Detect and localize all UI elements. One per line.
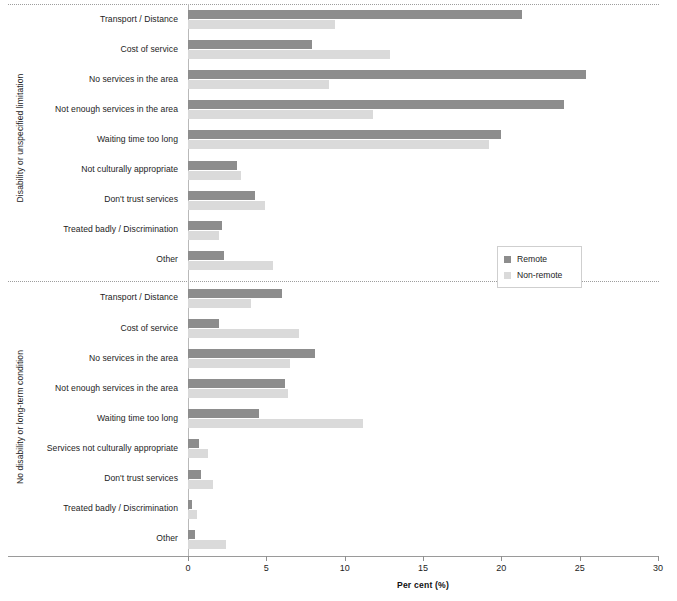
category-label: No services in the area: [89, 353, 178, 363]
bar-non-remote: [188, 480, 213, 489]
category-label: Not culturally appropriate: [81, 164, 178, 174]
bar-non-remote: [188, 261, 273, 270]
bar-non-remote: [188, 171, 241, 180]
chart-row: Cost of service: [188, 319, 658, 338]
category-label: Cost of service: [120, 44, 178, 54]
x-axis-line: [8, 556, 659, 557]
bar-non-remote: [188, 80, 329, 89]
bar-remote: [188, 130, 501, 139]
category-label: Services not culturally appropriate: [47, 443, 178, 453]
bar-remote: [188, 319, 219, 328]
category-label: Other: [156, 533, 178, 543]
category-label: Don't trust services: [104, 473, 178, 483]
chart-row: Waiting time too long: [188, 409, 658, 428]
chart-row: Other: [188, 251, 658, 270]
x-axis-tick-label: 30: [653, 563, 663, 573]
bar-non-remote: [188, 329, 299, 338]
category-label: Transport / Distance: [100, 14, 178, 24]
category-label: Treated badly / Discrimination: [63, 503, 178, 513]
bar-remote: [188, 439, 199, 448]
bar-remote: [188, 500, 192, 509]
bar-non-remote: [188, 50, 390, 59]
chart-row: Treated badly / Discrimination: [188, 221, 658, 240]
group-axis-label-disability: Disability or unspecified limitation: [15, 53, 25, 223]
legend-swatch-remote-icon: [504, 256, 511, 263]
bar-non-remote: [188, 389, 288, 398]
x-axis-tick-label: 25: [575, 563, 585, 573]
chart-row: Cost of service: [188, 40, 658, 59]
x-axis-tick-label: 15: [418, 563, 428, 573]
chart-row: Not enough services in the area: [188, 379, 658, 398]
chart-row: Waiting time too long: [188, 130, 658, 149]
x-axis-tick-label: 5: [264, 563, 269, 573]
legend-item-remote: Remote: [504, 251, 575, 267]
x-axis-tick: [580, 556, 581, 561]
chart-row: Services not culturally appropriate: [188, 439, 658, 458]
x-axis-tick-label: 0: [185, 563, 190, 573]
chart-container: Disability or unspecified limitation No …: [0, 0, 677, 601]
bar-non-remote: [188, 110, 373, 119]
bar-remote: [188, 251, 224, 260]
chart-row: Transport / Distance: [188, 289, 658, 308]
bar-non-remote: [188, 510, 197, 519]
group-axis-label-no-disability: No disability or long-term condition: [15, 332, 25, 502]
bar-non-remote: [188, 20, 335, 29]
category-label: Other: [156, 254, 178, 264]
chart-legend: Remote Non-remote: [497, 246, 582, 288]
x-axis-tick: [423, 556, 424, 561]
chart-row: Don't trust services: [188, 470, 658, 489]
legend-label-non-remote: Non-remote: [517, 270, 562, 280]
x-axis-tick: [188, 556, 189, 561]
chart-row: Transport / Distance: [188, 10, 658, 29]
legend-label-remote: Remote: [517, 254, 547, 264]
x-axis-tick: [345, 556, 346, 561]
category-label: Don't trust services: [104, 194, 178, 204]
chart-row: Not culturally appropriate: [188, 161, 658, 180]
bar-remote: [188, 70, 586, 79]
x-axis-tick: [501, 556, 502, 561]
bar-remote: [188, 409, 259, 418]
x-axis-title: Per cent (%): [188, 580, 658, 590]
bar-remote: [188, 349, 315, 358]
chart-row: Not enough services in the area: [188, 100, 658, 119]
bar-remote: [188, 191, 255, 200]
x-axis-tick-label: 10: [340, 563, 350, 573]
x-axis-tick: [266, 556, 267, 561]
category-label: Not enough services in the area: [55, 104, 178, 114]
bar-remote: [188, 289, 282, 298]
bar-non-remote: [188, 140, 489, 149]
category-label: Waiting time too long: [97, 413, 178, 423]
bar-non-remote: [188, 231, 219, 240]
bar-non-remote: [188, 201, 265, 210]
legend-swatch-non-remote-icon: [504, 272, 511, 279]
chart-row: No services in the area: [188, 70, 658, 89]
bar-remote: [188, 470, 201, 479]
category-label: No services in the area: [89, 74, 178, 84]
bar-remote: [188, 221, 222, 230]
bar-remote: [188, 379, 285, 388]
chart-row: Treated badly / Discrimination: [188, 500, 658, 519]
bar-non-remote: [188, 359, 290, 368]
bar-non-remote: [188, 449, 208, 458]
bar-remote: [188, 10, 522, 19]
category-label: Transport / Distance: [100, 292, 178, 302]
bar-non-remote: [188, 299, 251, 308]
category-label: Treated badly / Discrimination: [63, 224, 178, 234]
bar-remote: [188, 100, 564, 109]
chart-row: No services in the area: [188, 349, 658, 368]
x-axis-tick-label: 20: [496, 563, 506, 573]
bar-remote: [188, 40, 312, 49]
x-axis-tick: [658, 556, 659, 561]
bar-remote: [188, 530, 195, 539]
category-label: Cost of service: [120, 323, 178, 333]
category-label: Waiting time too long: [97, 134, 178, 144]
category-label: Not enough services in the area: [55, 383, 178, 393]
chart-row: Don't trust services: [188, 191, 658, 210]
chart-row: Other: [188, 530, 658, 549]
plot-area: Transport / DistanceCost of serviceNo se…: [188, 4, 658, 556]
bar-non-remote: [188, 419, 363, 428]
legend-item-non-remote: Non-remote: [504, 267, 575, 283]
bar-non-remote: [188, 540, 226, 549]
bar-remote: [188, 161, 237, 170]
